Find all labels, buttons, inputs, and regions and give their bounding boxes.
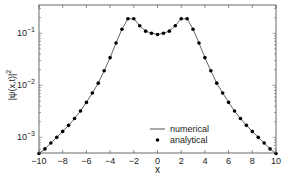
data-point-analytical	[132, 17, 136, 21]
y-axis-label-sup: 2	[5, 70, 12, 74]
data-point-analytical	[185, 17, 189, 21]
data-point-analytical	[227, 101, 231, 105]
data-point-analytical	[268, 147, 272, 151]
data-point-analytical	[150, 32, 154, 36]
data-point-analytical	[73, 117, 77, 121]
x-tick-label: 2	[179, 156, 184, 166]
svg-text:|ψ(x,t)|2: |ψ(x,t)|2	[5, 70, 17, 101]
legend-label-analytical: analytical	[170, 135, 208, 145]
data-point-analytical	[168, 29, 172, 33]
data-point-analytical	[138, 24, 142, 28]
x-tick-label: −8	[58, 156, 68, 166]
data-point-analytical	[197, 41, 201, 45]
data-point-analytical	[162, 32, 166, 36]
data-point-analytical	[191, 27, 195, 31]
data-point-analytical	[262, 141, 266, 145]
data-point-analytical	[239, 117, 243, 121]
data-point-analytical	[49, 141, 53, 145]
data-point-analytical	[173, 24, 177, 28]
x-tick-label: −2	[129, 156, 139, 166]
data-point-analytical	[96, 81, 100, 85]
data-point-analytical	[79, 109, 83, 113]
data-point-analytical	[221, 91, 225, 95]
data-point-analytical	[108, 56, 112, 60]
data-point-analytical	[209, 69, 213, 73]
data-point-analytical	[144, 29, 148, 33]
data-point-analytical	[233, 109, 237, 113]
x-axis-label: x	[155, 164, 160, 175]
data-point-analytical	[256, 136, 260, 140]
data-point-analytical	[179, 17, 183, 21]
y-axis-label: |ψ(x,t)|2	[5, 70, 17, 101]
x-tick-label: 6	[226, 156, 231, 166]
data-point-analytical	[67, 124, 71, 128]
x-tick-label: 10	[271, 156, 281, 166]
data-point-analytical	[114, 41, 118, 45]
data-point-analytical	[203, 56, 207, 60]
chart: −10−8−6−4−20246810 10−310−210−1 x |ψ(x,t…	[0, 0, 283, 178]
x-tick-label: −10	[31, 156, 46, 166]
data-point-analytical	[55, 136, 59, 140]
data-point-analytical	[91, 91, 95, 95]
x-tick-label: 8	[250, 156, 255, 166]
data-point-analytical	[102, 69, 106, 73]
data-point-analytical	[215, 81, 219, 85]
x-tick-label: 4	[202, 156, 207, 166]
data-point-analytical	[126, 17, 130, 21]
data-point-analytical	[61, 130, 65, 134]
data-point-analytical	[120, 27, 124, 31]
data-point-analytical	[251, 130, 255, 134]
legend-dot-symbol	[156, 138, 160, 142]
data-point-analytical	[156, 33, 160, 37]
data-point-analytical	[85, 101, 89, 105]
data-point-analytical	[43, 147, 47, 151]
data-point-analytical	[245, 124, 249, 128]
x-tick-label: −6	[81, 156, 91, 166]
y-axis-label-main: |ψ(x,t)|	[7, 74, 17, 101]
legend-label-numerical: numerical	[170, 124, 209, 134]
x-tick-label: −4	[105, 156, 115, 166]
